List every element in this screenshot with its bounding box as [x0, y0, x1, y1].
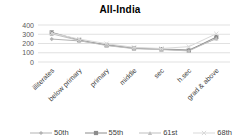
chart-container: All-India 0100200300400illiteratesbelow …: [0, 0, 240, 140]
x-category-label: illiterates: [31, 66, 56, 91]
x-category-label: sec: [152, 66, 165, 79]
diamond-marker-icon: [50, 37, 54, 41]
legend-label: 50th: [54, 128, 69, 137]
diamond-marker-icon: [39, 130, 43, 134]
y-tick-label: 0: [30, 59, 34, 66]
square-marker-icon: [93, 130, 97, 134]
y-tick-label: 300: [22, 31, 34, 38]
legend-item-61st: 61st: [139, 128, 177, 137]
legend-item-68th: 68th: [193, 128, 232, 137]
legend-item-50th: 50th: [30, 128, 69, 137]
x-category-label: h.sec: [176, 66, 193, 83]
legend-swatch-icon: [193, 129, 215, 137]
legend: 50th55th61st68th: [30, 128, 232, 137]
x-category-label: primary: [89, 66, 112, 89]
y-tick-label: 100: [22, 49, 34, 56]
legend-swatch-icon: [85, 129, 107, 137]
plot-area: 0100200300400illiteratesbelow primarypri…: [0, 0, 240, 140]
legend-label: 61st: [163, 128, 177, 137]
legend-item-55th: 55th: [85, 128, 124, 137]
y-tick-label: 400: [22, 22, 34, 29]
x-category-label: middle: [118, 67, 138, 87]
legend-swatch-icon: [30, 129, 52, 137]
legend-label: 55th: [109, 128, 124, 137]
legend-label: 68th: [217, 128, 232, 137]
y-tick-label: 200: [22, 40, 34, 47]
legend-swatch-icon: [139, 129, 161, 137]
